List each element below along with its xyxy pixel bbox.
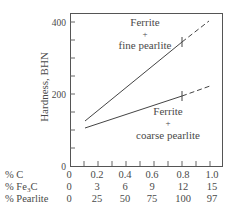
- svg-text:12: 12: [178, 181, 189, 192]
- annotation-fine-line1: Ferrite: [130, 16, 159, 28]
- svg-text:97: 97: [207, 193, 218, 204]
- row-label-carbon: % C: [5, 169, 23, 180]
- row-label-pearlite: % Pearlite: [5, 193, 49, 204]
- svg-text:100: 100: [175, 193, 191, 204]
- svg-text:0: 0: [66, 193, 71, 204]
- svg-text:0: 0: [66, 181, 71, 192]
- annotation-coarse-line1: Ferrite: [153, 105, 182, 117]
- y-tick-label-400: 400: [52, 18, 67, 28]
- svg-text:0.6: 0.6: [145, 169, 158, 180]
- annotation-coarse-line2: coarse pearlite: [136, 129, 200, 141]
- svg-text:0: 0: [66, 169, 71, 180]
- svg-text:0.8: 0.8: [176, 169, 189, 180]
- svg-text:75: 75: [147, 193, 158, 204]
- svg-text:0.2: 0.2: [90, 169, 103, 180]
- svg-text:6: 6: [122, 181, 127, 192]
- y-axis-label: Hardness, BHN: [38, 52, 50, 122]
- row-carbon-values: 0 0.2 0.4 0.6 0.8 1.0: [66, 169, 218, 180]
- x-ticks: [84, 161, 210, 166]
- annotation-coarse-plus: +: [165, 118, 170, 128]
- svg-text:1.0: 1.0: [205, 169, 218, 180]
- row-fe3c-values: 0 3 6 9 12 15: [66, 181, 217, 192]
- svg-text:25: 25: [92, 193, 103, 204]
- row-pearlite-values: 0 25 50 75 100 97: [66, 193, 217, 204]
- svg-text:0.4: 0.4: [118, 169, 132, 180]
- hardness-chart: 400 200 0 Hardness, BHN Ferrite + fine p…: [0, 0, 240, 214]
- annotation-fine-plus: +: [142, 29, 147, 39]
- series-coarse-pearlite: [85, 86, 210, 128]
- svg-text:9: 9: [149, 181, 154, 192]
- svg-text:3: 3: [94, 181, 99, 192]
- y-tick-label-200: 200: [52, 90, 67, 100]
- svg-text:15: 15: [207, 181, 218, 192]
- annotation-fine-line2: fine pearlite: [119, 39, 172, 51]
- svg-text:50: 50: [120, 193, 131, 204]
